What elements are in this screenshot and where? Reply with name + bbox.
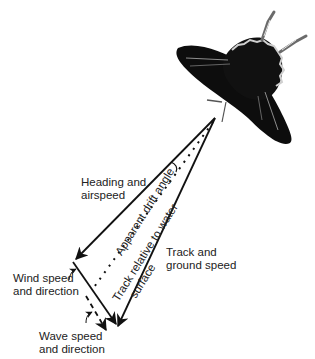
wave-vector	[86, 296, 106, 330]
heading-label-line1: Heading and	[81, 176, 146, 189]
wind-label-line1: Wind speed	[13, 272, 79, 285]
wave-label: Wave speed and direction	[39, 330, 105, 356]
wave-label-line2: and direction	[39, 343, 105, 356]
wave-label-line1: Wave speed	[39, 330, 105, 343]
butterfly-illustration	[176, 12, 306, 144]
heading-label-line2: airspeed	[81, 189, 146, 202]
wind-label-line2: and direction	[13, 285, 79, 298]
track-ground-label-line1: Track and	[166, 246, 236, 259]
track-ground-label-line2: ground speed	[166, 259, 236, 272]
wind-vector	[73, 262, 116, 324]
wind-label: Wind speed and direction	[13, 272, 79, 298]
heading-label: Heading and airspeed	[81, 176, 146, 202]
track-ground-label: Track and ground speed	[166, 246, 236, 272]
diagram-canvas: Heading and airspeed Track and ground sp…	[0, 0, 315, 359]
wave-pointer-icon	[86, 312, 92, 323]
